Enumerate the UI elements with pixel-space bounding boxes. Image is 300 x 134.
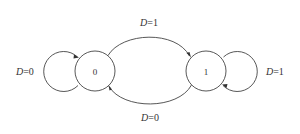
transition-label-d0-backward: D=0: [140, 112, 159, 123]
transition-1-to-1: D=1: [222, 51, 284, 91]
transition-label-d0-self: D=0: [15, 66, 34, 77]
transition-0-to-1: D=1: [108, 17, 191, 58]
state-1-label: 1: [204, 67, 209, 77]
transition-label-d1-forward: D=1: [139, 17, 158, 28]
state-1: 1: [186, 51, 226, 91]
arrowhead-0-to-1: [187, 52, 192, 58]
state-0: 0: [75, 51, 115, 91]
arc-0-to-1: [108, 37, 190, 56]
state-0-label: 0: [93, 67, 98, 77]
arrowhead-1-to-0: [109, 85, 113, 91]
self-loop-arrowhead-0: [74, 55, 80, 59]
state-diagram: D=0 0 D=1 D=0 1 D=1: [0, 0, 300, 134]
self-loop-arc-1: [223, 51, 257, 91]
arc-1-to-0: [109, 85, 192, 104]
transition-1-to-0: D=0: [109, 85, 192, 123]
transition-label-d1-self: D=1: [265, 66, 284, 77]
transition-0-to-0: D=0: [15, 51, 79, 91]
self-loop-arc-0: [44, 51, 78, 91]
